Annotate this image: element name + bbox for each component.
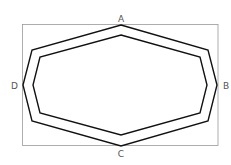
label-a: A <box>118 14 125 24</box>
inner-octagon <box>33 35 207 135</box>
label-b: B <box>223 81 229 91</box>
outer-octagon <box>23 25 217 146</box>
bounding-rectangle <box>23 25 219 146</box>
label-d: D <box>11 81 18 91</box>
label-c: C <box>118 149 124 159</box>
octagon-diagram: A B C D <box>0 0 231 165</box>
